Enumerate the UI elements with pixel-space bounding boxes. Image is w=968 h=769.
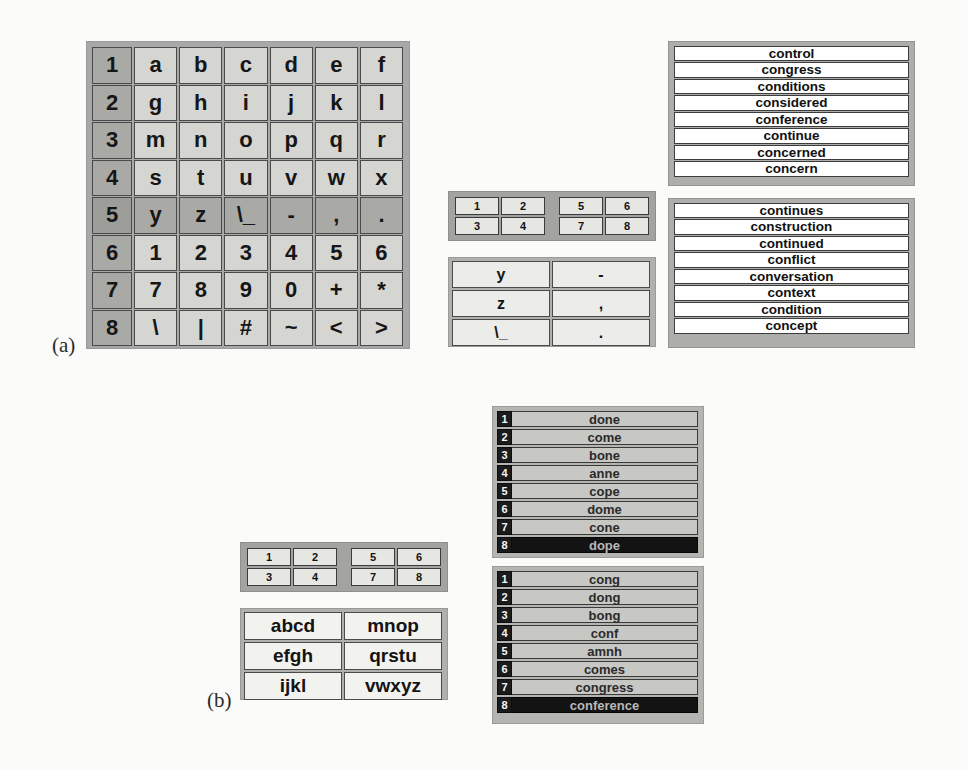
word-suggestion-row[interactable]: 4anne [497, 465, 698, 481]
keypad-key[interactable]: 5 [559, 197, 603, 215]
row-number-key[interactable]: 1 [92, 47, 132, 84]
character-key[interactable]: \ [134, 310, 177, 347]
chooser-key[interactable]: , [552, 290, 650, 317]
character-key[interactable]: p [270, 122, 313, 159]
character-key[interactable]: h [179, 85, 222, 122]
row-number-key[interactable]: 4 [92, 160, 132, 197]
chooser-key[interactable]: vwxyz [344, 672, 442, 700]
character-key[interactable]: 8 [179, 272, 222, 309]
character-key[interactable]: m [134, 122, 177, 159]
character-key[interactable]: z [179, 197, 222, 234]
row-number-key[interactable]: 2 [92, 85, 132, 122]
keypad-key[interactable]: 2 [293, 548, 337, 566]
keypad-key[interactable]: 5 [351, 548, 395, 566]
word-suggestion-row[interactable]: concern [674, 161, 909, 176]
character-key[interactable]: x [360, 160, 403, 197]
word-suggestion-row[interactable]: 6comes [497, 661, 698, 677]
word-suggestion-row[interactable]: continued [674, 236, 909, 251]
word-suggestion-row[interactable]: 7cone [497, 519, 698, 535]
word-suggestion-row[interactable]: 8conference [497, 697, 698, 713]
keypad-key[interactable]: 6 [605, 197, 649, 215]
character-key[interactable]: 9 [224, 272, 267, 309]
word-suggestion-row[interactable]: control [674, 46, 909, 61]
character-key[interactable]: v [270, 160, 313, 197]
character-key[interactable]: 1 [134, 235, 177, 272]
character-key[interactable]: n [179, 122, 222, 159]
word-suggestion-row[interactable]: conference [674, 112, 909, 127]
keypad-key[interactable]: 6 [397, 548, 441, 566]
keypad-key[interactable]: 8 [605, 217, 649, 235]
letter-group-chooser-b[interactable]: abcdmnopefghqrstuijklvwxyz [240, 608, 448, 700]
character-key[interactable]: > [360, 310, 403, 347]
word-suggestion-row[interactable]: concept [674, 318, 909, 333]
group-keypad-b[interactable]: 1234 5678 [240, 542, 448, 592]
keypad-key[interactable]: 7 [559, 217, 603, 235]
character-key[interactable]: u [224, 160, 267, 197]
character-key[interactable]: f [360, 47, 403, 84]
keypad-key[interactable]: 8 [397, 568, 441, 586]
word-suggestion-row[interactable]: 5cope [497, 483, 698, 499]
chooser-key[interactable]: efgh [244, 642, 342, 670]
row-number-key[interactable]: 8 [92, 310, 132, 347]
chooser-key[interactable]: mnop [344, 612, 442, 640]
character-key[interactable]: s [134, 160, 177, 197]
character-key[interactable]: 4 [270, 235, 313, 272]
chooser-key[interactable]: z [452, 290, 550, 317]
chooser-key[interactable]: ijkl [244, 672, 342, 700]
keypad-key[interactable]: 3 [455, 217, 499, 235]
word-suggestion-row[interactable]: conflict [674, 252, 909, 267]
character-key[interactable]: * [360, 272, 403, 309]
character-key[interactable]: , [315, 197, 358, 234]
row-number-key[interactable]: 5 [92, 197, 132, 234]
word-suggestion-row[interactable]: congress [674, 62, 909, 77]
word-suggestion-row[interactable]: 1done [497, 411, 698, 427]
character-key[interactable]: 3 [224, 235, 267, 272]
character-key[interactable]: l [360, 85, 403, 122]
character-key[interactable]: 5 [315, 235, 358, 272]
word-suggestion-row[interactable]: 6dome [497, 501, 698, 517]
character-key[interactable]: # [224, 310, 267, 347]
character-key[interactable]: j [270, 85, 313, 122]
keypad-key[interactable]: 1 [247, 548, 291, 566]
word-suggestion-row[interactable]: 7congress [497, 679, 698, 695]
word-suggestion-row[interactable]: conversation [674, 269, 909, 284]
character-key[interactable]: k [315, 85, 358, 122]
word-suggestion-row[interactable]: continues [674, 203, 909, 218]
character-key[interactable]: d [270, 47, 313, 84]
character-key[interactable]: e [315, 47, 358, 84]
character-key[interactable]: | [179, 310, 222, 347]
character-grid[interactable]: 1abcdef2ghijkl3mnopqr4stuvwx5yz\_-,.6123… [86, 41, 410, 349]
keypad-key[interactable]: 3 [247, 568, 291, 586]
keypad-left-group[interactable]: 1234 [455, 197, 545, 235]
character-key[interactable]: \_ [224, 197, 267, 234]
character-key[interactable]: - [270, 197, 313, 234]
character-key[interactable]: b [179, 47, 222, 84]
character-key[interactable]: + [315, 272, 358, 309]
chooser-key[interactable]: . [552, 319, 650, 346]
character-key[interactable]: g [134, 85, 177, 122]
character-key[interactable]: r [360, 122, 403, 159]
character-key[interactable]: 2 [179, 235, 222, 272]
row-number-key[interactable]: 3 [92, 122, 132, 159]
character-key[interactable]: y [134, 197, 177, 234]
keypad-key[interactable]: 4 [501, 217, 545, 235]
word-suggestion-row[interactable]: conditions [674, 79, 909, 94]
character-key[interactable]: c [224, 47, 267, 84]
character-key[interactable]: q [315, 122, 358, 159]
character-key[interactable]: 6 [360, 235, 403, 272]
word-suggestion-row[interactable]: considered [674, 95, 909, 110]
keypad-right-group[interactable]: 5678 [559, 197, 649, 235]
word-suggestion-row[interactable]: 3bone [497, 447, 698, 463]
keypad-right-group[interactable]: 5678 [351, 548, 441, 586]
group-keypad-a[interactable]: 1234 5678 [448, 191, 656, 241]
word-suggestion-row[interactable]: construction [674, 219, 909, 234]
word-suggestion-row[interactable]: 4conf [497, 625, 698, 641]
chooser-key[interactable]: abcd [244, 612, 342, 640]
word-suggestion-row[interactable]: 2come [497, 429, 698, 445]
keypad-key[interactable]: 7 [351, 568, 395, 586]
row-number-key[interactable]: 7 [92, 272, 132, 309]
word-suggestion-row[interactable]: 8dope [497, 537, 698, 553]
character-key[interactable]: 7 [134, 272, 177, 309]
prediction-list-b-primary[interactable]: 1done2come3bone4anne5cope6dome7cone8dope [492, 406, 704, 558]
keypad-left-group[interactable]: 1234 [247, 548, 337, 586]
